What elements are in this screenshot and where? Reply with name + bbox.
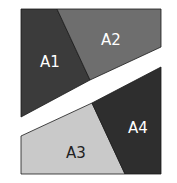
label-a2: A2 bbox=[101, 31, 121, 49]
label-a3: A3 bbox=[66, 144, 86, 162]
area-partition-diagram: A1 A2 A3 A4 bbox=[0, 0, 177, 183]
label-a1: A1 bbox=[40, 53, 60, 71]
label-a4: A4 bbox=[128, 119, 148, 137]
